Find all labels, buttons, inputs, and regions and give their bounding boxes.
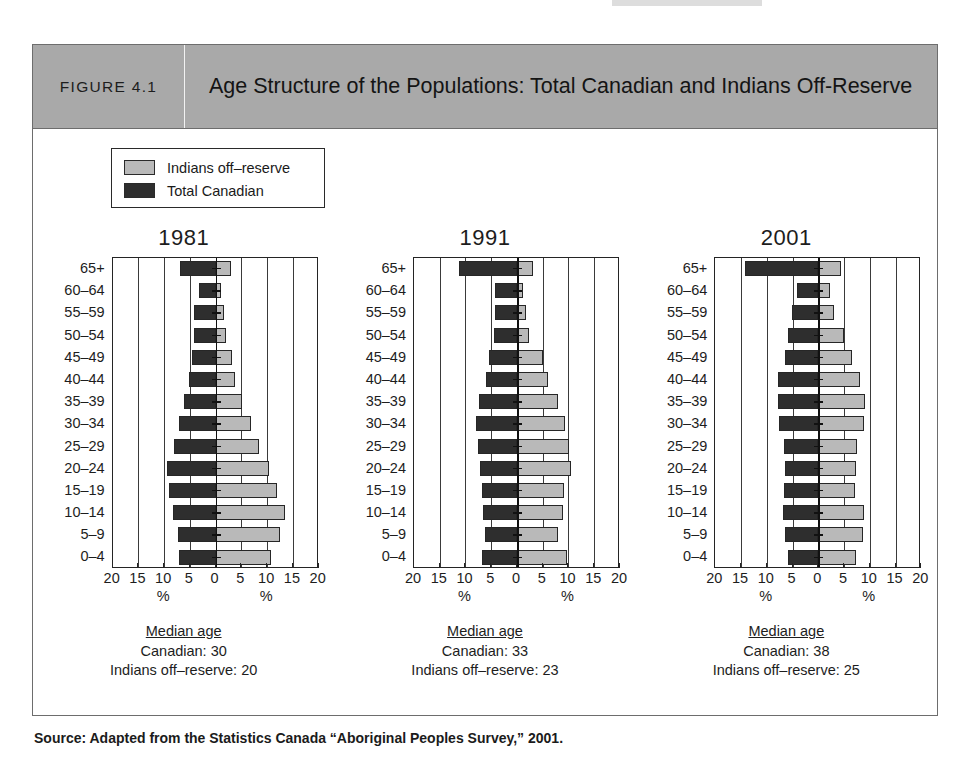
panel-1991: 199165+60–6455–5950–5445–4940–4435–3930–… [334, 225, 635, 680]
panel-1981: 198165+60–6455–5950–5445–4940–4435–3930–… [33, 225, 334, 680]
age-group-label: 50–54 [652, 324, 714, 346]
median-age-canadian: Canadian: 38 [636, 642, 937, 661]
figure-box: FIGURE 4.1 Age Structure of the Populati… [32, 44, 938, 716]
x-tick-label: 15 [129, 570, 145, 586]
x-tick-label: 15 [585, 570, 601, 586]
pyramid-row [414, 458, 618, 480]
pyramid-row [414, 524, 618, 546]
age-group-label: 55–59 [652, 301, 714, 323]
age-group-label: 65+ [50, 257, 112, 279]
median-age-caption: Median ageCanadian: 33Indians off–reserv… [334, 622, 635, 680]
pyramid-row [715, 347, 919, 369]
legend-swatch-dark [124, 183, 155, 198]
center-tick [212, 490, 221, 491]
bar-total-canadian [180, 261, 216, 276]
bar-indians-off-reserve [818, 527, 863, 542]
bar-indians-off-reserve [517, 483, 564, 498]
median-age-caption: Median ageCanadian: 30Indians off–reserv… [33, 622, 334, 680]
plot-area [112, 257, 318, 568]
source-note: Source: Adapted from the Statistics Cana… [34, 730, 563, 746]
pyramid-row [715, 302, 919, 324]
population-pyramid: 65+60–6455–5950–5445–4940–4435–3930–3425… [334, 257, 635, 568]
x-tick-mark [895, 563, 896, 568]
pyramid-row [113, 436, 317, 458]
x-tick-mark [490, 563, 491, 568]
age-group-label: 60–64 [652, 279, 714, 301]
center-tick [814, 357, 823, 358]
bar-indians-off-reserve [517, 394, 558, 409]
x-tick-label: 20 [706, 570, 722, 586]
panel-title: 1981 [33, 225, 334, 251]
chart-legend: Indians off–reserveTotal Canadian [111, 148, 325, 208]
center-tick [212, 290, 221, 291]
population-pyramid: 65+60–6455–5950–5445–4940–4435–3930–3425… [33, 257, 334, 568]
bar-indians-off-reserve [216, 505, 285, 520]
center-tick [513, 423, 522, 424]
pyramid-row [414, 436, 618, 458]
center-tick [212, 357, 221, 358]
center-tick [814, 379, 823, 380]
bar-total-canadian [745, 261, 819, 276]
x-tick-mark [292, 563, 293, 568]
x-tick-mark [189, 563, 190, 568]
pyramid-row [414, 280, 618, 302]
pyramid-row [414, 258, 618, 280]
median-age-heading: Median age [447, 622, 523, 641]
pyramid-row [414, 369, 618, 391]
median-age-heading: Median age [146, 622, 222, 641]
pyramid-row [715, 436, 919, 458]
x-tick-label: 5 [185, 570, 193, 586]
x-axis-ticks: 201510505101520%% [112, 568, 318, 610]
age-group-label: 40–44 [351, 368, 413, 390]
figure-number-label: FIGURE 4.1 [60, 78, 157, 96]
median-age-indians-off-reserve: Indians off–reserve: 20 [33, 661, 334, 680]
pyramid-row [113, 391, 317, 413]
age-group-label: 5–9 [652, 523, 714, 545]
figure-body: Indians off–reserveTotal Canadian 198165… [33, 129, 937, 715]
population-pyramid: 65+60–6455–5950–5445–4940–4435–3930–3425… [636, 257, 937, 568]
center-tick [212, 335, 221, 336]
x-tick-label: 20 [104, 570, 120, 586]
age-group-label: 30–34 [50, 412, 112, 434]
pyramid-row [715, 369, 919, 391]
x-tick-label: 5 [839, 570, 847, 586]
x-tick-label: 5 [486, 570, 494, 586]
center-tick [212, 268, 221, 269]
x-axis-spacer [652, 568, 714, 610]
center-tick [212, 401, 221, 402]
panel-title: 2001 [636, 225, 937, 251]
age-group-label: 55–59 [351, 301, 413, 323]
age-group-label: 5–9 [351, 523, 413, 545]
pyramid-row [715, 458, 919, 480]
x-axis-spacer [351, 568, 413, 610]
center-axis-line [216, 258, 218, 567]
center-tick [212, 468, 221, 469]
age-group-axis: 65+60–6455–5950–5445–4940–4435–3930–3425… [50, 257, 112, 568]
pyramid-row [113, 258, 317, 280]
bar-total-canadian [167, 461, 216, 476]
pyramid-row [414, 391, 618, 413]
pyramid-row [715, 413, 919, 435]
x-tick-label: 5 [788, 570, 796, 586]
panel-title: 1991 [334, 225, 635, 251]
x-tick-label: 10 [456, 570, 472, 586]
bar-total-canadian [179, 550, 216, 565]
center-tick [814, 490, 823, 491]
x-tick-label: 20 [912, 570, 928, 586]
bar-total-canadian [480, 461, 517, 476]
plot-area [714, 257, 920, 568]
x-tick-mark [439, 563, 440, 568]
x-tick-label: 10 [758, 570, 774, 586]
x-tick-mark [240, 563, 241, 568]
age-group-label: 20–24 [652, 457, 714, 479]
pyramid-row [113, 524, 317, 546]
x-tick-label: 15 [431, 570, 447, 586]
age-group-label: 0–4 [652, 545, 714, 567]
pyramid-row [113, 302, 317, 324]
pyramid-row [113, 347, 317, 369]
x-tick-label: 0 [512, 570, 520, 586]
x-tick-label: 15 [732, 570, 748, 586]
pyramid-row [113, 280, 317, 302]
age-group-label: 30–34 [652, 412, 714, 434]
chart-panels: 198165+60–6455–5950–5445–4940–4435–3930–… [33, 225, 937, 680]
